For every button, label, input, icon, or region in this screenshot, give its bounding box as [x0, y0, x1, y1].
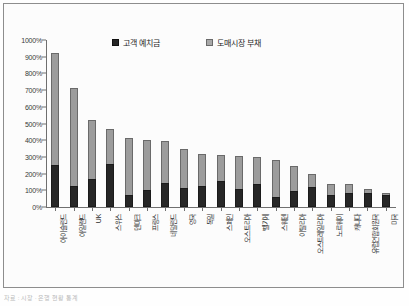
bar-slot[interactable]: [138, 40, 156, 207]
bar-segment-deposits[interactable]: [180, 188, 188, 207]
x-tick-label: 스웨덴: [279, 214, 289, 231]
bar-slot[interactable]: [120, 40, 138, 207]
bar-segment-deposits[interactable]: [106, 164, 114, 207]
x-tick-mark: [55, 207, 56, 211]
stacked-bar[interactable]: [327, 184, 335, 207]
x-tick-mark: [74, 207, 75, 211]
bar-slot[interactable]: [211, 40, 229, 207]
bar-segment-deposits[interactable]: [70, 186, 78, 207]
bar-segment-wholesale[interactable]: [125, 138, 133, 196]
stacked-bar[interactable]: [161, 141, 169, 207]
x-tick-mark: [349, 207, 350, 211]
bar-segment-wholesale[interactable]: [143, 140, 151, 190]
stacked-bar[interactable]: [143, 140, 151, 207]
stacked-bar[interactable]: [253, 157, 261, 207]
bar-segment-deposits[interactable]: [51, 165, 59, 207]
bar-segment-deposits[interactable]: [143, 190, 151, 207]
bar-segment-deposits[interactable]: [88, 179, 96, 207]
bar-segment-deposits[interactable]: [308, 187, 316, 207]
bar-segment-wholesale[interactable]: [51, 53, 59, 166]
bar-segment-deposits[interactable]: [327, 195, 335, 207]
bar-segment-wholesale[interactable]: [198, 154, 206, 187]
x-tick-label: 스위스: [113, 214, 123, 231]
x-tick-mark: [386, 207, 387, 211]
bar-slot[interactable]: [340, 40, 358, 207]
x-tick-label: 벨기에: [260, 214, 270, 231]
x-tick-label: 캐나다: [352, 214, 362, 231]
bar-slot[interactable]: [175, 40, 193, 207]
bar-segment-deposits[interactable]: [364, 193, 372, 207]
stacked-bar[interactable]: [235, 156, 243, 207]
stacked-bar[interactable]: [70, 88, 78, 207]
bar-segment-wholesale[interactable]: [70, 88, 78, 187]
stacked-bar[interactable]: [382, 193, 390, 207]
x-tick-label: 이탈리아: [297, 214, 307, 237]
bar-segment-wholesale[interactable]: [308, 174, 316, 187]
stacked-bar[interactable]: [88, 120, 96, 207]
bar-slot[interactable]: [285, 40, 303, 207]
bar-segment-wholesale[interactable]: [327, 184, 335, 196]
stacked-bar[interactable]: [364, 189, 372, 207]
bar-segment-deposits[interactable]: [198, 186, 206, 207]
stacked-bar[interactable]: [272, 160, 280, 207]
bar-slot[interactable]: [322, 40, 340, 207]
bar-segment-wholesale[interactable]: [290, 166, 298, 191]
x-tick-mark: [257, 207, 258, 211]
bar-segment-wholesale[interactable]: [161, 141, 169, 183]
x-tick-mark: [92, 207, 93, 211]
figure-caption: 자료 : 시장 · 은행 현황 통계: [4, 293, 78, 302]
stacked-bar[interactable]: [198, 154, 206, 207]
bar-slot[interactable]: [230, 40, 248, 207]
bar-slot[interactable]: [303, 40, 321, 207]
bar-segment-wholesale[interactable]: [345, 184, 353, 193]
bar-slot[interactable]: [358, 40, 376, 207]
bar-segment-deposits[interactable]: [290, 191, 298, 207]
bar-slot[interactable]: [377, 40, 395, 207]
bar-segment-wholesale[interactable]: [180, 149, 188, 187]
x-tick-label: 스페인: [224, 214, 234, 231]
x-tick-label: 영국: [187, 214, 197, 225]
bar-slot[interactable]: [193, 40, 211, 207]
bar-slot[interactable]: [267, 40, 285, 207]
chart-page: 고객 예치금 도매시장 부채 1000%900%800%700%600%500%…: [0, 0, 409, 306]
stacked-bar[interactable]: [290, 166, 298, 207]
x-tick-label: 아일랜드: [77, 214, 87, 237]
x-tick-label: 프랑스: [150, 214, 160, 231]
bar-slot[interactable]: [64, 40, 82, 207]
bar-segment-deposits[interactable]: [272, 197, 280, 207]
figure-frame: 고객 예치금 도매시장 부채 1000%900%800%700%600%500%…: [3, 3, 404, 288]
stacked-bar[interactable]: [308, 174, 316, 207]
bar-slot[interactable]: [156, 40, 174, 207]
bar-segment-wholesale[interactable]: [88, 120, 96, 179]
bar-segment-deposits[interactable]: [217, 181, 225, 207]
bar-slot[interactable]: [248, 40, 266, 207]
bar-segment-deposits[interactable]: [161, 183, 169, 207]
x-tick-label: UK: [95, 214, 102, 223]
bar-segment-deposits[interactable]: [253, 184, 261, 207]
stacked-bar[interactable]: [217, 155, 225, 207]
bar-slot[interactable]: [46, 40, 64, 207]
x-tick-mark: [202, 207, 203, 211]
x-tick-label: 오스트리아: [242, 214, 252, 243]
bar-segment-deposits[interactable]: [235, 189, 243, 207]
bar-slot[interactable]: [83, 40, 101, 207]
bar-segment-deposits[interactable]: [125, 195, 133, 207]
stacked-bar[interactable]: [125, 138, 133, 207]
bar-series-group: [46, 40, 395, 207]
stacked-bar[interactable]: [180, 149, 188, 207]
stacked-bar[interactable]: [51, 53, 59, 207]
x-tick-label: 덴마크: [132, 214, 142, 231]
bar-segment-wholesale[interactable]: [217, 155, 225, 181]
bar-slot[interactable]: [101, 40, 119, 207]
x-tick-label: 독일: [205, 214, 215, 225]
bar-segment-wholesale[interactable]: [235, 156, 243, 189]
bar-segment-wholesale[interactable]: [106, 129, 114, 163]
x-tick-label: 유럽연합회원국: [370, 214, 380, 254]
stacked-bar[interactable]: [345, 184, 353, 207]
bar-segment-deposits[interactable]: [345, 193, 353, 207]
bar-segment-deposits[interactable]: [382, 195, 390, 207]
bar-segment-wholesale[interactable]: [272, 160, 280, 197]
x-tick-mark: [129, 207, 130, 211]
bar-segment-wholesale[interactable]: [253, 157, 261, 185]
stacked-bar[interactable]: [106, 129, 114, 207]
